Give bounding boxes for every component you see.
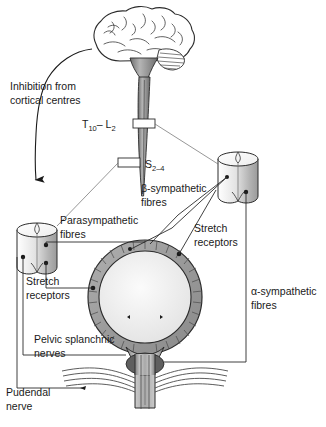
sympathetic-ganglion xyxy=(218,152,258,203)
stretch-right-line-2: receptors xyxy=(194,236,238,248)
pelvic-splanchnic-line-2: nerves xyxy=(34,347,66,359)
spinal-cord xyxy=(138,77,150,196)
inhibition-line-2: cortical centres xyxy=(10,94,81,106)
beta-sympathetic-line-1: β-sympathetic xyxy=(141,182,207,194)
sacral-sub: 2–4 xyxy=(152,164,165,173)
connector-thoracolumbar-to-sympathetic-ganglion xyxy=(155,124,218,164)
sacral-main: S xyxy=(145,158,152,170)
inhibition-arrow xyxy=(35,49,92,180)
bladder-innervation-figure: Inhibition from cortical centres T10– L2… xyxy=(0,0,326,427)
parasympathetic-line-2: fibres xyxy=(60,228,86,240)
stretch-left-line-1: Stretch xyxy=(26,275,59,287)
svg-text:T10– L2: T10– L2 xyxy=(82,118,116,133)
label-sacral-level: S2–4 xyxy=(145,158,165,173)
beta-sympathetic-line-2: fibres xyxy=(141,196,167,208)
label-alpha-sympathetic-fibres: α-sympathetic fibres xyxy=(251,285,317,311)
inhibition-line-1: Inhibition from xyxy=(10,80,76,92)
stretch-right-line-1: Stretch xyxy=(194,222,227,234)
thoracolumbar-sub-2: 2 xyxy=(111,124,115,133)
diagram-canvas: Inhibition from cortical centres T10– L2… xyxy=(0,0,326,427)
pudendal-line-1: Pudendal xyxy=(6,386,50,398)
label-pudendal-nerve: Pudendal nerve xyxy=(6,386,50,412)
stretch-left-line-2: receptors xyxy=(26,289,70,301)
label-thoracolumbar-level: T10– L2 xyxy=(82,118,116,133)
alpha-sympathetic-line-2: fibres xyxy=(251,299,277,311)
pudendal-line-2: nerve xyxy=(6,400,32,412)
alpha-sympathetic-line-1: α-sympathetic xyxy=(251,285,317,297)
sacral-level-marker xyxy=(118,158,140,167)
thoracolumbar-dash: – L xyxy=(97,118,112,130)
brain xyxy=(94,7,195,78)
thoracolumbar-sub-1: 10 xyxy=(88,124,96,133)
label-inhibition-from-cortical-centres: Inhibition from cortical centres xyxy=(10,80,81,106)
label-stretch-receptors-right: Stretch receptors xyxy=(194,222,238,248)
parasympathetic-line-1: Parasympathetic xyxy=(60,214,138,226)
svg-text:S2–4: S2–4 xyxy=(145,158,165,173)
label-beta-sympathetic-fibres: β-sympathetic fibres xyxy=(141,182,207,208)
thoracolumbar-level-marker xyxy=(133,119,155,128)
label-parasympathetic-fibres: Parasympathetic fibres xyxy=(60,214,138,240)
internal-urethral-sphincter xyxy=(126,353,164,376)
pelvic-splanchnic-line-1: Pelvic splanchnic xyxy=(34,333,115,345)
